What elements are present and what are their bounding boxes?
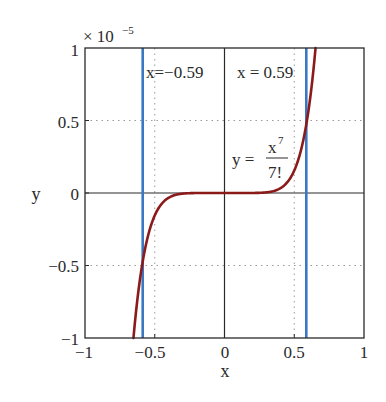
eq-numerator: x (268, 138, 277, 157)
xtick-1: 1 (360, 343, 369, 362)
tick-marks (85, 121, 294, 339)
x-tick-labels: −1 −0.5 0 0.5 1 (75, 343, 368, 362)
y-multiplier: × 10 −5 (83, 24, 134, 46)
y-tick-labels: 1 0.5 0 −0.5 −1 (48, 41, 79, 349)
xtick-neg-1: −1 (75, 343, 93, 362)
annotation-vline-neg: x=−0.59 (146, 63, 203, 82)
xtick-0.5: 0.5 (283, 343, 304, 362)
ytick-neg-0.5: −0.5 (48, 257, 79, 276)
multiplier-exponent: −5 (122, 24, 134, 36)
ytick-0: 0 (71, 185, 80, 204)
ytick-0.5: 0.5 (58, 113, 79, 132)
equation-annotation: y = x 7 7! (232, 134, 288, 182)
xtick-neg-0.5: −0.5 (135, 343, 166, 362)
x-axis-label: x (221, 361, 230, 381)
ytick-1: 1 (71, 41, 80, 60)
annotation-vline-pos: x = 0.59 (237, 63, 293, 82)
eq-denominator: 7! (268, 163, 282, 182)
chart: 1 0.5 0 −0.5 −1 −1 −0.5 0 0.5 1 x y × 10… (0, 0, 386, 402)
eq-prefix: y = (232, 150, 254, 169)
multiplier-base: × 10 (83, 27, 114, 46)
eq-numerator-exponent: 7 (278, 134, 284, 146)
xtick-0: 0 (221, 343, 230, 362)
y-axis-label: y (32, 184, 41, 204)
